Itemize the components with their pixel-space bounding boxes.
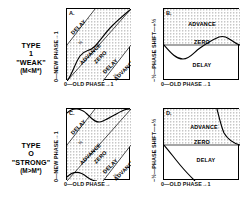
panel-c-x-axis-label: 0—OLD PHASE→ — [64, 182, 110, 187]
panel-b-region-advance: ADVANCE — [188, 21, 216, 27]
panel-c-y-axis-label: 0—NEW PHASE→1 — [54, 131, 59, 182]
panel-d-region-zero: ZERO — [194, 139, 210, 145]
panel-b-region-delay: DELAY — [193, 62, 212, 68]
phase-response-figure: TYPE 1 "WEAK" (M<M*) 0—NEW PHASE→1 — [0, 0, 251, 201]
panel-b-plot: ADVANCE ZERO DELAY B. — [163, 8, 239, 80]
panel-d-corner-label: D. — [166, 111, 172, 117]
panel-a-corner-label: A. — [69, 11, 75, 17]
panel-b-corner-label: B. — [166, 11, 172, 17]
panel-d-plot: ADVANCE ZERO DELAY D. — [163, 108, 239, 180]
panel-d-region-delay: DELAY — [197, 157, 216, 163]
row-label-strength-2: "STRONG" — [4, 159, 58, 167]
panel-c-plot: DELAY ½ ADVANCE ZERO DELAY ½ ADVANCE C. — [66, 108, 130, 180]
panel-b-region-zero: ZERO — [194, 39, 210, 45]
row-label-condition: (M<M*) — [4, 67, 58, 75]
row-label-type-0-strong: TYPE O "STRONG" (M>M*) — [4, 142, 58, 175]
panel-a-plot: DELAY ½ ADVANCE ZERO DELAY ½ ADVANCE A. — [66, 8, 130, 80]
panel-b-x-axis-label: 0—OLD PHASE→1 — [161, 82, 211, 87]
panel-b-y-axis-label: −½—PHASE SHIFT—+½ — [152, 19, 157, 82]
row-label-strength: "WEAK" — [4, 59, 58, 67]
panel-a-x-axis-label: 0—OLD PHASE→1 — [64, 82, 114, 87]
row-label-type-1-weak: TYPE 1 "WEAK" (M<M*) — [4, 42, 58, 75]
panel-d-region-advance: ADVANCE — [190, 124, 218, 130]
panel-c-corner-label: C. — [69, 111, 75, 117]
panel-d-y-axis-label: −½—PHASE SHIFT—+½ — [152, 119, 157, 182]
panel-d-x-axis-label: 0—OLD PHASE→1 — [161, 182, 211, 187]
panel-a-y-axis-label: 0—NEW PHASE→1 — [54, 31, 59, 82]
row-label-condition-2: (M>M*) — [4, 167, 58, 175]
